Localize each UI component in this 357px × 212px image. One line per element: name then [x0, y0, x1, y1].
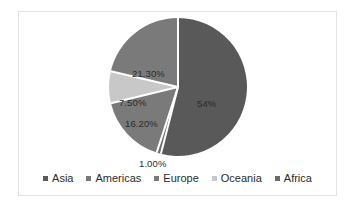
pie-chart-frame: 21.30% 54% 7.50% 16.20% 1.00% Asia Ameri…	[18, 11, 337, 196]
legend-item-asia[interactable]: Asia	[43, 173, 73, 184]
pie-label-americas: 16.20%	[125, 118, 158, 129]
legend-label-asia: Asia	[52, 173, 73, 184]
pie-label-asia: 54%	[197, 98, 216, 109]
legend-label-oceania: Oceania	[221, 173, 262, 184]
legend-item-oceania[interactable]: Oceania	[212, 173, 262, 184]
pie-label-oceania: 7.50%	[119, 97, 146, 108]
legend-label-europe: Europe	[163, 173, 198, 184]
legend-item-europe[interactable]: Europe	[154, 173, 198, 184]
pie-label-europe: 21.30%	[132, 68, 165, 79]
legend-label-africa: Africa	[284, 173, 312, 184]
pie-chart-graphic	[98, 16, 258, 158]
legend-item-americas[interactable]: Americas	[86, 173, 141, 184]
square-marker-icon	[154, 176, 159, 181]
pie-plot-area: 21.30% 54% 7.50% 16.20% 1.00%	[19, 12, 336, 160]
legend-label-americas: Americas	[95, 173, 141, 184]
chart-legend: Asia Americas Europe Oceania Africa	[19, 162, 336, 195]
square-marker-icon	[212, 176, 217, 181]
square-marker-icon	[43, 176, 48, 181]
square-marker-icon	[86, 176, 91, 181]
square-marker-icon	[275, 176, 280, 181]
legend-item-africa[interactable]: Africa	[275, 173, 312, 184]
